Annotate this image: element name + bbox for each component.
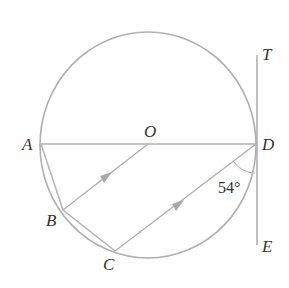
diagram-canvas [0, 0, 289, 288]
angle-label-54: 54° [218, 180, 240, 196]
label-b: B [46, 212, 56, 229]
label-t: T [262, 46, 271, 63]
geometry-diagram: A O D B C T E 54° [0, 0, 289, 288]
parallel-arrow-cd-icon [172, 200, 184, 211]
chord-bc [63, 210, 115, 251]
chord-cd [115, 144, 256, 251]
label-o: O [144, 123, 156, 140]
label-c: C [103, 256, 114, 273]
label-a: A [22, 136, 32, 153]
label-d: D [262, 136, 274, 153]
parallel-arrow-ob-icon [100, 172, 112, 183]
label-e: E [262, 238, 272, 255]
angle-arc-d [233, 161, 255, 173]
circle [40, 32, 256, 258]
